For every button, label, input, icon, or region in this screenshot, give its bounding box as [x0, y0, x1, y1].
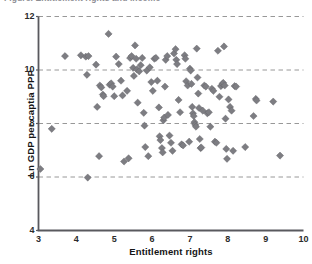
data-point [111, 93, 118, 100]
data-point [166, 132, 173, 139]
data-point [130, 72, 137, 79]
data-point [92, 61, 99, 68]
data-point [119, 92, 126, 99]
data-point [134, 99, 141, 106]
data-point [169, 147, 176, 154]
y-tick-label-10: 10 [21, 64, 35, 74]
data-point [216, 93, 223, 100]
x-tick-label-6: 6 [144, 234, 160, 244]
data-points [37, 30, 284, 181]
y-tick-label-6: 6 [21, 171, 35, 181]
data-point [220, 43, 227, 50]
data-point [105, 30, 112, 37]
data-point [223, 145, 230, 152]
data-point [189, 103, 196, 110]
data-point [141, 122, 148, 129]
data-point [139, 54, 146, 61]
data-point [95, 153, 102, 160]
x-tick-label-3: 3 [31, 234, 47, 244]
data-point [193, 45, 200, 52]
data-point [145, 153, 152, 160]
y-tick-label-8: 8 [21, 118, 35, 128]
x-tick-label-9: 9 [258, 234, 274, 244]
data-point [195, 90, 202, 97]
x-tick-label-8: 8 [220, 234, 236, 244]
data-point [113, 53, 120, 60]
x-tick-label-7: 7 [182, 234, 198, 244]
data-point [161, 83, 168, 90]
data-point [83, 71, 90, 78]
data-point [175, 96, 182, 103]
data-point [250, 112, 257, 119]
data-point [242, 143, 249, 150]
data-point [186, 138, 193, 145]
data-point [223, 155, 230, 162]
x-tick-label-5: 5 [106, 234, 122, 244]
data-point [131, 42, 138, 49]
data-point [214, 47, 221, 54]
data-point [167, 139, 174, 146]
data-point [61, 52, 68, 59]
data-point [270, 98, 277, 105]
data-point [154, 77, 161, 84]
data-point [196, 135, 203, 142]
data-point [222, 115, 229, 122]
data-point [117, 77, 124, 84]
data-point [276, 152, 283, 159]
data-point [115, 61, 122, 68]
data-point [176, 109, 183, 116]
x-axis-title: Entitlement rights [38, 246, 304, 257]
data-point [229, 147, 236, 154]
data-point [94, 103, 101, 110]
data-point [194, 74, 201, 81]
data-point [142, 143, 149, 150]
scatter-chart: Entitlement rights Ln GDP per captia PPP… [0, 0, 312, 264]
plot-area-svg [0, 0, 312, 264]
y-tick-label-12: 12 [21, 11, 35, 21]
data-point [149, 87, 156, 94]
data-point [207, 123, 214, 130]
y-tick-label-4: 4 [21, 225, 35, 235]
data-point [225, 96, 232, 103]
data-point [84, 174, 91, 181]
data-point [148, 78, 155, 85]
x-tick-label-4: 4 [68, 234, 84, 244]
data-point [48, 125, 55, 132]
x-tick-label-10: 10 [296, 234, 312, 244]
data-point [140, 109, 147, 116]
data-point [155, 104, 162, 111]
data-point [123, 87, 130, 94]
